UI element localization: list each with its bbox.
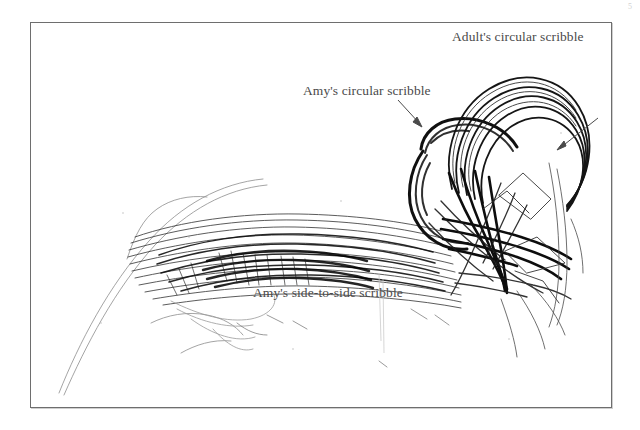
adult-circular-ovals <box>449 78 590 211</box>
scattered-marks <box>237 309 449 367</box>
label-amy-side-to-side-scribble: Amy's side-to-side scribble <box>253 286 403 300</box>
label-amy-circular-scribble: Amy's circular scribble <box>303 84 431 98</box>
figure-frame <box>30 22 612 408</box>
label-adult-circular-scribble: Adult's circular scribble <box>452 30 584 44</box>
side-to-side-outer-arc <box>59 179 267 395</box>
side-to-side-dark-core <box>157 234 445 291</box>
figure-page: 5 <box>0 0 640 430</box>
central-dense-mass <box>441 169 571 293</box>
page-corner-mark: 5 <box>628 2 632 11</box>
scribble-drawing <box>31 23 611 407</box>
